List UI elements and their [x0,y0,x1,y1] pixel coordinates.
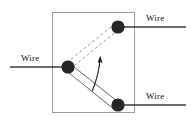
lower-contact-node [111,98,124,111]
wire-label-top-right: Wire [146,14,164,23]
rotation-arrow-arc [93,60,101,91]
upper-arm-dashed [67,23,120,70]
upper-contact-node [111,20,124,33]
lower-arm-rail-inner [71,65,120,104]
wire-label-bottom-right: Wire [146,92,164,101]
wire-label-left: Wire [21,54,39,63]
lower-arm-rail-outer [66,71,115,110]
upper-arm-rail-outer [67,23,117,63]
switch-mechanism-figure: Wire Wire Wire [0,0,193,123]
upper-arm-rail-inner [70,29,120,69]
pivot-contact-node [61,60,74,73]
